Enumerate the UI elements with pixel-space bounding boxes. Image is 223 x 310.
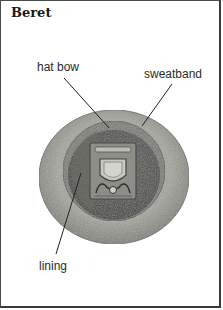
hat-badge xyxy=(90,143,136,199)
diagram-frame: Beret xyxy=(0,0,221,308)
label-lining: lining xyxy=(39,259,67,273)
label-sweatband: sweatband xyxy=(144,67,202,81)
beret-illustration xyxy=(1,1,223,310)
label-hat-bow: hat bow xyxy=(37,60,79,74)
sweatband-leader xyxy=(142,84,172,126)
